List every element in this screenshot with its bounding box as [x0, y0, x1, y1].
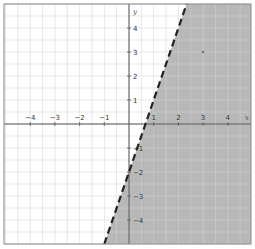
- x-tick-label: −1: [99, 114, 109, 122]
- y-tick-label: −2: [133, 169, 143, 177]
- y-tick-label: −4: [133, 217, 144, 225]
- y-tick-label: 2: [133, 73, 137, 81]
- x-tick-label: −2: [74, 114, 84, 122]
- x-tick-label: −3: [50, 114, 60, 122]
- x-tick-label: 1: [151, 114, 155, 122]
- test-point: [202, 51, 205, 54]
- y-tick-label: 1: [133, 97, 137, 105]
- x-axis-label: x: [245, 114, 249, 122]
- test-point-dot: [202, 51, 205, 54]
- y-axis-label: y: [132, 8, 138, 16]
- inequality-graph: −4−3−2−112344321−1−2−3−4xy: [0, 0, 255, 249]
- y-tick-label: 3: [133, 49, 137, 57]
- x-tick-label: −4: [25, 114, 36, 122]
- x-tick-label: 3: [201, 114, 205, 122]
- y-tick-label: −3: [133, 193, 143, 201]
- x-tick-label: 4: [226, 114, 231, 122]
- x-tick-label: 2: [176, 114, 180, 122]
- y-tick-label: 4: [133, 25, 138, 33]
